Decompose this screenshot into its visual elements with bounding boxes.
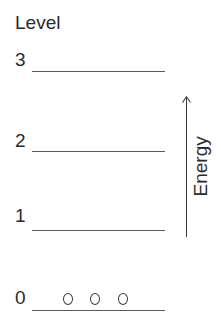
level-3-label: 3 [15,50,26,69]
particle-circle [90,293,100,305]
level-2-line [32,151,165,152]
energy-axis-label: Energy [191,137,210,197]
level-1-label: 1 [15,206,26,225]
particle-circle [118,293,128,305]
diagram-title: Level [15,13,60,32]
level-0-label: 0 [15,288,26,307]
level-0-line [32,310,165,311]
particle-circle [63,293,73,305]
arrow-up-icon [182,96,191,104]
level-3-line [32,71,165,72]
level-1-line [32,230,165,231]
energy-axis-line [186,98,187,237]
level-2-label: 2 [15,131,26,150]
